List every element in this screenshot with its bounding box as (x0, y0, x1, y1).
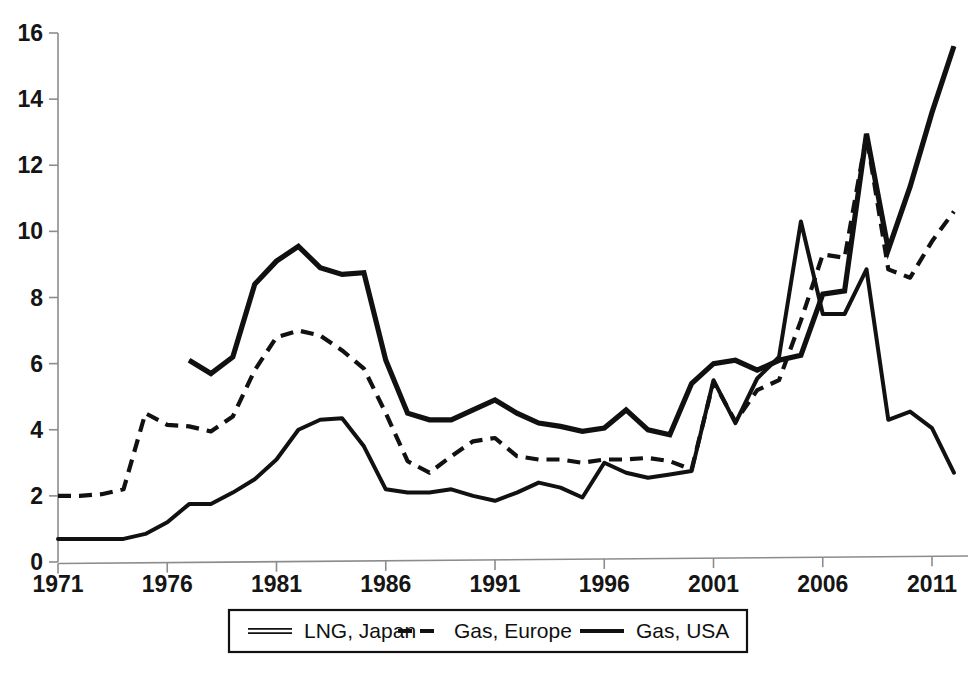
legend-label: Gas, Europe (454, 619, 572, 642)
x-tick-label: 1986 (360, 571, 411, 597)
x-tick-label: 1981 (251, 571, 302, 597)
series-line-outer (189, 46, 954, 435)
y-tick-label: 8 (30, 285, 43, 311)
series-line-inner (189, 46, 954, 435)
y-tick-label: 14 (17, 86, 43, 112)
plot-area (58, 46, 954, 539)
y-tick-label: 10 (17, 218, 43, 244)
series-gas-europe (58, 136, 954, 496)
x-axis: 197119761981198619911996200120062011 (32, 556, 968, 597)
x-tick-label: 2001 (688, 571, 739, 597)
x-axis-line (58, 556, 968, 564)
y-tick-label: 4 (30, 417, 43, 443)
y-tick-label: 2 (30, 483, 43, 509)
x-tick-label: 2011 (907, 571, 957, 597)
y-tick-label: 6 (30, 351, 43, 377)
x-tick-label: 1991 (469, 571, 520, 597)
y-axis: 0246810121416 (17, 20, 58, 575)
chart-container: 0246810121416 19711976198119861991199620… (0, 0, 972, 676)
x-tick-label: 1976 (142, 571, 193, 597)
x-tick-label: 2006 (797, 571, 848, 597)
x-tick-label: 1971 (32, 571, 83, 597)
y-tick-label: 12 (17, 152, 43, 178)
legend-label: Gas, USA (636, 619, 729, 642)
y-tick-label: 16 (17, 20, 43, 46)
x-tick-label: 1996 (579, 571, 630, 597)
chart-legend: LNG, JapanGas, EuropeGas, USA (229, 610, 747, 652)
series-lng-japan (189, 46, 954, 435)
line-chart: 0246810121416 19711976198119861991199620… (0, 0, 972, 676)
